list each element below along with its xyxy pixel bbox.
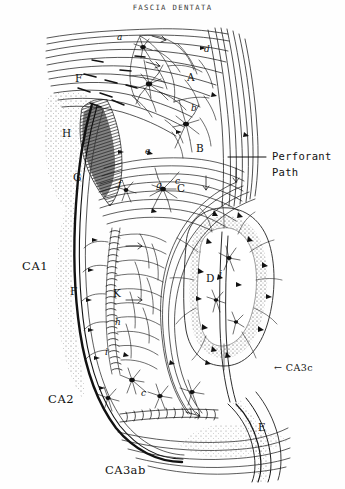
- ca1-label: CA1: [22, 261, 48, 273]
- perforant-path-label-line2: Path: [272, 167, 299, 178]
- ca2-label: CA2: [48, 394, 74, 406]
- inner-label-e: e: [145, 147, 150, 156]
- dentate-granule-layer: [184, 208, 274, 366]
- inner-label-C: C: [177, 183, 185, 194]
- ca1-pyramidal-beaded-band: [106, 228, 122, 374]
- inner-label-c2: c: [141, 389, 146, 398]
- inner-label-b: b: [191, 104, 197, 113]
- inner-label-B: B: [196, 143, 204, 154]
- region-B-arbor: [165, 100, 211, 158]
- drawing-ink: [45, 28, 290, 483]
- ca3ab-label: CA3ab: [105, 465, 146, 477]
- inner-label-K: K: [113, 288, 121, 299]
- inner-label-i: i: [105, 348, 108, 357]
- inner-label-f: f: [118, 180, 121, 189]
- neuron-top-center: [134, 38, 152, 58]
- inner-label-G: G: [73, 172, 81, 183]
- inner-label-j: j: [219, 270, 222, 279]
- inner-label-a: a: [117, 33, 122, 42]
- inner-label-d: d: [204, 45, 210, 54]
- inner-label-F: F: [75, 73, 82, 84]
- inner-label-H: H: [62, 128, 71, 139]
- hippocampus-drawing: [0, 0, 345, 489]
- inner-label-g: g: [156, 181, 162, 190]
- inner-label-h: h: [115, 318, 121, 327]
- ca3-beaded-band: [120, 408, 218, 422]
- stippled-field-H: [45, 92, 93, 209]
- inner-label-E: E: [258, 422, 266, 433]
- figure-canvas: FASCIA DENTATA: [0, 0, 345, 489]
- ca3c-label: ← CA3c: [274, 363, 313, 373]
- inner-label-F2: F: [70, 286, 77, 297]
- neuron-cluster-g: [150, 168, 179, 212]
- perforant-path-label-line1: Perforant: [272, 151, 332, 162]
- inner-label-D: D: [206, 273, 214, 284]
- bottom-stipple-field: [178, 424, 288, 458]
- inner-label-A: A: [187, 72, 195, 83]
